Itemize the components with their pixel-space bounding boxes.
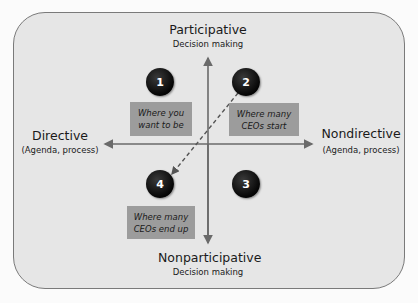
quadrant-4-label-line2: CEOs end up <box>134 223 189 235</box>
quadrant-1-label: Where you want to be <box>130 102 192 136</box>
right-axis-subtitle: (Agenda, process) <box>318 145 404 155</box>
quadrant-2-badge: 2 <box>232 68 260 96</box>
quadrant-1-label-line1: Where you <box>138 107 184 119</box>
bottom-axis-title: Nonparticipative <box>158 250 258 265</box>
right-axis-title: Nondirective <box>318 126 404 141</box>
top-axis-subtitle: Decision making <box>158 39 258 49</box>
quadrant-1-label-line2: want to be <box>138 119 183 131</box>
quadrant-2-label-line1: Where many <box>237 108 291 120</box>
left-axis-title: Directive <box>20 128 100 143</box>
quadrant-4-label-line1: Where many <box>134 211 188 223</box>
quadrant-4-label: Where many CEOs end up <box>127 206 195 239</box>
quadrant-2-label-line2: CEOs start <box>242 120 287 132</box>
left-axis-subtitle: (Agenda, process) <box>18 145 102 155</box>
quadrant-2-label: Where many CEOs start <box>229 103 299 136</box>
quadrant-1-badge: 1 <box>146 68 174 96</box>
bottom-axis-subtitle: Decision making <box>158 267 258 277</box>
quadrant-4-badge: 4 <box>146 170 174 198</box>
quadrant-3-badge: 3 <box>232 170 260 198</box>
top-axis-title: Participative <box>158 22 258 37</box>
